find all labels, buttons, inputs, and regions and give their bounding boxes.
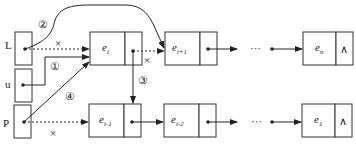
node-e-n: en ∧ — [303, 32, 353, 65]
svg-text:∧: ∧ — [339, 115, 347, 127]
svg-text:u: u — [5, 78, 11, 90]
node-e-i-2: ei-2 — [164, 104, 216, 137]
node-e-i-1: ei-1 — [89, 104, 141, 137]
linked-list-diagram: L u P ei ei+1 en ∧ ei-1 ei-2 — [0, 0, 356, 146]
step-3-marker: ③ — [138, 74, 148, 86]
removed-mark-L: × — [55, 37, 61, 49]
step-1-marker: ① — [50, 60, 60, 72]
pointer-P: P — [3, 105, 31, 138]
node-e-1: e1 ∧ — [302, 104, 352, 137]
svg-text:∧: ∧ — [340, 43, 348, 55]
step-4-marker: ④ — [65, 90, 75, 102]
ellipsis-top: ··· — [250, 42, 261, 54]
ellipsis-bottom: ··· — [251, 115, 262, 127]
step-2-marker: ② — [38, 18, 48, 30]
node-e-i: ei — [90, 32, 142, 65]
pointer-L: L — [5, 32, 32, 65]
svg-text:P: P — [3, 117, 9, 129]
removed-mark-e-i: × — [144, 54, 150, 66]
svg-text:L: L — [5, 39, 12, 51]
removed-mark-P: × — [50, 127, 56, 139]
